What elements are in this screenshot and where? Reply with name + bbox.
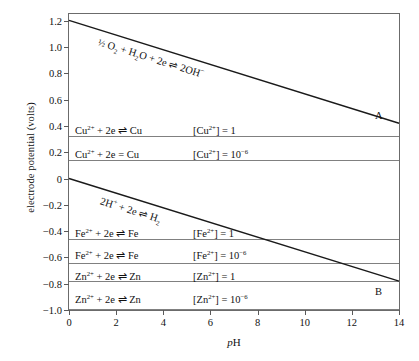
xtick-label: 2 [114, 317, 119, 328]
xtick-mark [116, 310, 117, 315]
ytick-mark [64, 231, 69, 232]
ytick-label: 1.0 [49, 41, 62, 52]
conc-value: 10 [229, 250, 240, 261]
reaction-row-zn-1: Zn2+ + 2e ⇌ Zn[Zn2+] = 1 [75, 272, 235, 283]
oxygen-equation-label: ½ O2 + H2O + 2e ⇌ 2OH− [97, 36, 206, 80]
conc-close: ] = [216, 149, 231, 160]
eq-prefix: Cu [75, 125, 87, 136]
xtick-label: 4 [161, 317, 166, 328]
xtick-mark [352, 310, 353, 315]
eq-charge: 2+ [87, 270, 94, 277]
endpoint-label-b: B [375, 286, 382, 297]
conc-open: [Zn [193, 271, 208, 282]
sloped-lines-group [69, 14, 399, 310]
reaction-equation: Fe2+ + 2e ⇌ Fe [75, 229, 193, 240]
conc-close: ] = [214, 228, 229, 239]
conc-close: ] = [216, 125, 231, 136]
ytick-mark [64, 257, 69, 258]
reaction-equation: Zn2+ + 2e ⇌ Zn [75, 295, 193, 306]
ytick-label: −0.2 [43, 199, 62, 210]
xtick-mark [258, 310, 259, 315]
ytick-mark [64, 21, 69, 22]
eq-prefix: Zn [75, 294, 87, 305]
ytick-mark [64, 284, 69, 285]
ytick-label: −0.6 [43, 252, 62, 263]
xtick-label: 14 [394, 317, 405, 328]
conc-close: ] = [215, 271, 230, 282]
ytick-label: −0.8 [43, 278, 62, 289]
conc-open: [Fe [193, 250, 207, 261]
eq-arrow-icon: ⇌ [118, 294, 127, 305]
eq-suffix: Cu [124, 149, 139, 160]
eq-mid: + 2e [94, 149, 118, 160]
ytick-label: 0.8 [49, 68, 62, 79]
reaction-equation: Cu2+ + 2e ⇌ Cu [75, 126, 193, 137]
ytick-label: 0.4 [49, 120, 62, 131]
eq-charge: 2+ [87, 293, 94, 300]
reaction-concentration: [Zn2+] = 1 [193, 272, 235, 283]
eq-mid: + 2e [93, 250, 117, 261]
eq-prefix: Fe [75, 228, 86, 239]
eq-mid: + 2e [94, 271, 118, 282]
eq-mid: + 2e [94, 294, 118, 305]
xtick-label: 12 [347, 317, 358, 328]
reaction-concentration: [Fe2+] = 10−6 [193, 251, 246, 262]
ytick-mark [64, 205, 69, 206]
ytick-label: 0.2 [49, 147, 62, 158]
reaction-row-fe-1e-6: Fe2+ + 2e ⇌ Fe[Fe2+] = 10−6 [75, 251, 246, 262]
reaction-row-cu-1: Cu2+ + 2e ⇌ Cu[Cu2+] = 1 [75, 126, 236, 137]
reaction-equation: Zn2+ + 2e ⇌ Zn [75, 272, 193, 283]
pourbaix-electrode-potential-figure: electrode potential (volts) pH 1.2 1.0 0… [0, 0, 419, 361]
ytick-mark [64, 47, 69, 48]
conc-open: [Zn [193, 294, 208, 305]
eq-suffix: Fe [125, 228, 138, 239]
x-axis-title-rest: H [233, 336, 241, 348]
ytick-label: 0 [57, 173, 62, 184]
eq-charge: 2+ [86, 227, 93, 234]
conc-exp: −6 [241, 293, 248, 300]
reaction-equation: Cu2+ + 2e = Cu [75, 150, 193, 161]
ytick-label: 1.2 [49, 15, 62, 26]
endpoint-label-a: A [375, 110, 383, 121]
conc-exp: −6 [241, 148, 248, 155]
conc-charge: 2+ [209, 148, 216, 155]
eq-suffix: Zn [127, 271, 141, 282]
ytick-label: −0.4 [43, 225, 62, 236]
ytick-mark [64, 126, 69, 127]
reaction-concentration: [Zn2+] = 10−6 [193, 295, 248, 306]
eq-prefix: Zn [75, 271, 87, 282]
conc-value: 1 [229, 228, 234, 239]
conc-value: 1 [230, 271, 235, 282]
xtick-mark [305, 310, 306, 315]
xtick-label: 10 [299, 317, 310, 328]
conc-open: [Cu [193, 125, 209, 136]
y-axis-title: electrode potential (volts) [25, 68, 36, 248]
eq-arrow-icon: ⇌ [118, 125, 127, 136]
ytick-mark [64, 179, 69, 180]
eq-suffix: Zn [127, 294, 141, 305]
eq-prefix: Cu [75, 149, 87, 160]
reaction-concentration: [Cu2+] = 1 [193, 126, 236, 137]
reaction-row-zn-1e-6: Zn2+ + 2e ⇌ Zn[Zn2+] = 10−6 [75, 295, 248, 306]
xtick-mark [399, 310, 400, 315]
eq-suffix: Fe [125, 250, 138, 261]
ytick-mark [64, 152, 69, 153]
conc-open: [Fe [193, 228, 207, 239]
reaction-row-cu-1e-6: Cu2+ + 2e = Cu[Cu2+] = 10−6 [75, 150, 248, 161]
eq-suffix: Cu [127, 125, 142, 136]
hydrogen-equation-label: 2H+ + 2e ⇌ H2 [99, 195, 163, 225]
hline-fe-1e-6 [69, 263, 399, 264]
conc-value: 10 [231, 149, 242, 160]
eq-mid: + 2e [94, 125, 118, 136]
oxygen-p3: O + 2e [138, 49, 171, 69]
plot-area: 1.2 1.0 0.8 0.6 0.4 0.2 0 −0.2 [68, 13, 400, 311]
conc-open: [Cu [193, 149, 209, 160]
reaction-equation: Fe2+ + 2e ⇌ Fe [75, 251, 193, 262]
x-axis-title: pH [68, 336, 400, 348]
conc-value: 10 [230, 294, 241, 305]
conc-charge: 2+ [209, 124, 216, 131]
reaction-concentration: [Fe2+] = 1 [193, 229, 234, 240]
xtick-label: 6 [208, 317, 213, 328]
eq-charge: 2+ [86, 249, 93, 256]
xtick-mark [163, 310, 164, 315]
